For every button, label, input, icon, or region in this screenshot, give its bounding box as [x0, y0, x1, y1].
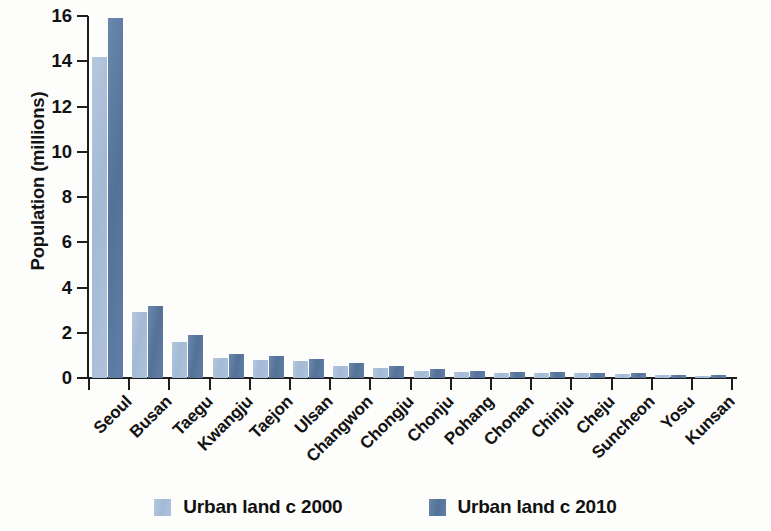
x-axis-tick	[168, 379, 170, 390]
bar	[574, 373, 589, 378]
y-axis-tick-label: 6	[24, 231, 72, 253]
y-axis-tick-label: 12	[24, 96, 72, 118]
bar	[293, 361, 308, 378]
x-axis-tick	[450, 379, 452, 390]
x-axis-tick	[88, 379, 90, 390]
y-axis-tick	[77, 241, 88, 243]
x-axis-tick	[691, 379, 693, 390]
x-axis-tick	[611, 379, 613, 390]
bar	[615, 374, 630, 378]
x-axis-tick	[410, 379, 412, 390]
x-axis-tick	[329, 379, 331, 390]
bar-group	[651, 16, 691, 378]
bar-group	[530, 16, 570, 378]
bar-chart-figure: Population (millions) 0246810121416 Seou…	[0, 0, 771, 531]
bar	[92, 57, 107, 378]
bar	[389, 366, 404, 378]
bar	[470, 371, 485, 378]
bar	[671, 375, 686, 378]
legend-label: Urban land c 2010	[458, 496, 617, 518]
y-axis-tick	[77, 196, 88, 198]
bar-group	[168, 16, 208, 378]
x-axis-label: Taejon	[246, 392, 297, 443]
bar	[269, 356, 284, 378]
x-axis-tick	[249, 379, 251, 390]
y-axis-tick	[77, 60, 88, 62]
bar	[333, 366, 348, 378]
y-axis-tick	[77, 15, 88, 17]
bar	[534, 373, 549, 378]
x-axis-tick	[651, 379, 653, 390]
x-axis-label: Busan	[126, 392, 176, 442]
bar	[108, 18, 123, 378]
bar	[631, 373, 646, 378]
bar-group	[490, 16, 530, 378]
x-axis-tick	[209, 379, 211, 390]
legend-label: Urban land c 2000	[183, 496, 342, 518]
plot-area	[88, 16, 736, 378]
bar	[229, 354, 244, 378]
y-axis-tick	[77, 151, 88, 153]
bar	[349, 363, 364, 378]
bar-group	[369, 16, 409, 378]
x-axis-tick	[289, 379, 291, 390]
bar	[430, 369, 445, 378]
y-axis-tick	[77, 377, 88, 379]
y-axis-title: Population (millions)	[27, 51, 49, 311]
chart-legend: Urban land c 2000Urban land c 2010	[0, 496, 771, 518]
legend-swatch-icon	[429, 499, 446, 516]
bar	[550, 372, 565, 378]
y-axis-tick	[77, 106, 88, 108]
bar-group	[611, 16, 651, 378]
bar	[695, 376, 710, 378]
bar	[454, 372, 469, 378]
bar	[253, 360, 268, 378]
bar-group	[209, 16, 249, 378]
y-axis-tick-label: 4	[24, 277, 72, 299]
legend-entry: Urban land c 2000	[154, 496, 342, 518]
x-axis-tick	[731, 379, 733, 390]
y-axis-tick	[77, 332, 88, 334]
bar-group	[289, 16, 329, 378]
y-axis-tick-label: 0	[24, 367, 72, 389]
bar	[510, 372, 525, 378]
bar-group	[691, 16, 731, 378]
y-axis-tick	[77, 287, 88, 289]
x-axis-tick	[128, 379, 130, 390]
bar-group	[329, 16, 369, 378]
bar	[188, 335, 203, 378]
legend-entry: Urban land c 2010	[429, 496, 617, 518]
x-axis-tick	[369, 379, 371, 390]
bar	[148, 306, 163, 378]
bar	[309, 359, 324, 378]
bar-group	[88, 16, 128, 378]
bar	[132, 312, 147, 378]
bar	[494, 373, 509, 378]
bar	[590, 373, 605, 378]
bar-group	[128, 16, 168, 378]
bar-group	[450, 16, 490, 378]
x-axis-tick	[570, 379, 572, 390]
y-axis-tick-label: 16	[24, 5, 72, 27]
y-axis-tick-label: 14	[24, 50, 72, 72]
x-axis-label: Chinju	[528, 392, 579, 443]
bar	[711, 375, 726, 378]
legend-swatch-icon	[154, 499, 171, 516]
y-axis-tick-label: 2	[24, 322, 72, 344]
bar-group	[410, 16, 450, 378]
bar	[172, 342, 187, 378]
bar	[655, 375, 670, 378]
bar	[213, 358, 228, 378]
x-axis-tick	[530, 379, 532, 390]
bar	[373, 368, 388, 378]
y-axis-tick-label: 8	[24, 186, 72, 208]
y-axis-tick-label: 10	[24, 141, 72, 163]
bar-group	[249, 16, 289, 378]
bar-group	[570, 16, 610, 378]
x-axis-tick	[490, 379, 492, 390]
bar	[414, 371, 429, 378]
